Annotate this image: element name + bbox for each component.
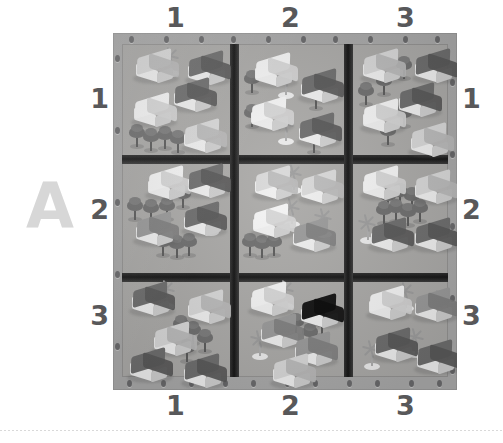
house-model-dark-roof[interactable]	[129, 286, 175, 316]
peg-hole-left-3	[115, 199, 120, 206]
house-model-white-roof[interactable]	[131, 97, 177, 127]
column-label-top-2: 2	[273, 4, 307, 31]
peg-hole-left-2	[115, 127, 120, 134]
house-model-light-roof[interactable]	[408, 127, 454, 157]
board-cell-A3-3[interactable]	[354, 282, 457, 390]
screenshot-root: 1 2 3 1 2 3 1 2 3 1 2 3 A	[0, 0, 503, 443]
house-model-light-roof[interactable]	[133, 53, 179, 83]
house-model-dark-roof[interactable]	[368, 222, 414, 252]
peg-hole-top-7	[333, 36, 338, 43]
peg-hole-top-2	[164, 36, 169, 43]
column-label-top-1: 1	[158, 4, 192, 31]
house-model-mid-roof[interactable]	[412, 292, 457, 322]
house-model-dark-roof[interactable]	[171, 82, 217, 112]
row-label-right-3: 3	[462, 302, 486, 329]
tree-model[interactable]	[266, 236, 282, 256]
house-model-dark-roof[interactable]	[412, 222, 457, 252]
board-cell-A2-1[interactable]	[123, 164, 230, 274]
peg-hole-left-4	[115, 271, 120, 278]
peg-hole-top-6	[301, 36, 306, 43]
column-label-bottom-3: 3	[388, 392, 422, 419]
board-cell-A1-3[interactable]	[354, 45, 457, 155]
peg-hole-top-5	[266, 36, 271, 43]
board-cell-A1-2[interactable]	[240, 45, 347, 155]
house-model-light-roof[interactable]	[412, 174, 457, 204]
tree-model[interactable]	[197, 332, 213, 352]
scan-dotted-line	[0, 430, 503, 431]
house-model-mid-roof[interactable]	[290, 222, 336, 252]
peg-hole-bottom-8	[347, 380, 352, 387]
row-label-right-2: 2	[462, 196, 486, 223]
divider-horizontal-1	[122, 155, 448, 164]
house-model-dark-roof[interactable]	[181, 206, 227, 236]
peg-hole-top-8	[368, 36, 373, 43]
divider-vertical-1	[230, 44, 239, 377]
house-model-dark-roof[interactable]	[181, 358, 227, 388]
house-model-dark-roof[interactable]	[185, 168, 231, 198]
house-model-white-roof[interactable]	[248, 286, 294, 316]
house-model-mid-roof[interactable]	[133, 216, 179, 246]
peg-hole-top-10	[435, 36, 440, 43]
house-model-dark-roof[interactable]	[298, 73, 344, 103]
house-model-white-roof[interactable]	[360, 170, 406, 200]
peg-hole-top-3	[199, 36, 204, 43]
house-model-light-roof[interactable]	[181, 123, 227, 153]
row-label-left-2: 2	[84, 196, 108, 223]
house-model-black-roof[interactable]	[298, 298, 344, 328]
board-cell-A2-3[interactable]	[354, 164, 457, 274]
tree-model[interactable]	[358, 85, 374, 105]
peg-hole-top-9	[403, 36, 408, 43]
board-cell-A3-1[interactable]	[123, 282, 230, 390]
board-cell-A1-1[interactable]	[123, 45, 230, 155]
row-label-left-3: 3	[84, 302, 108, 329]
peg-hole-left-1	[115, 55, 120, 62]
tree-model[interactable]	[412, 202, 428, 222]
house-model-light-roof[interactable]	[298, 174, 344, 204]
house-model-light-roof[interactable]	[252, 170, 298, 200]
board-cell-A3-2[interactable]	[240, 282, 347, 390]
row-label-left-1: 1	[84, 85, 108, 112]
peg-hole-top-4	[231, 36, 236, 43]
row-label-right-1: 1	[462, 85, 486, 112]
board-cell-A2-2[interactable]	[240, 164, 347, 274]
game-board[interactable]	[113, 33, 457, 390]
plate-letter: A	[14, 175, 84, 237]
house-model-dark-roof[interactable]	[296, 117, 342, 147]
house-model-dark-roof[interactable]	[414, 344, 457, 374]
house-model-white-roof[interactable]	[360, 103, 406, 133]
peg-hole-left-5	[115, 343, 120, 350]
house-model-light-roof[interactable]	[185, 294, 231, 324]
house-model-dark-roof[interactable]	[372, 332, 418, 362]
house-model-dark-roof[interactable]	[412, 53, 457, 83]
column-label-top-3: 3	[388, 4, 422, 31]
peg-hole-top-1	[129, 36, 134, 43]
house-model-light-roof[interactable]	[270, 358, 316, 388]
house-model-light-roof[interactable]	[360, 53, 406, 83]
house-model-dark-roof[interactable]	[127, 352, 173, 382]
house-model-white-roof[interactable]	[248, 101, 294, 131]
column-label-bottom-1: 1	[158, 392, 192, 419]
house-model-white-roof[interactable]	[366, 290, 412, 320]
house-model-white-roof[interactable]	[252, 57, 298, 87]
tree-model[interactable]	[181, 236, 197, 256]
column-label-bottom-2: 2	[273, 392, 307, 419]
